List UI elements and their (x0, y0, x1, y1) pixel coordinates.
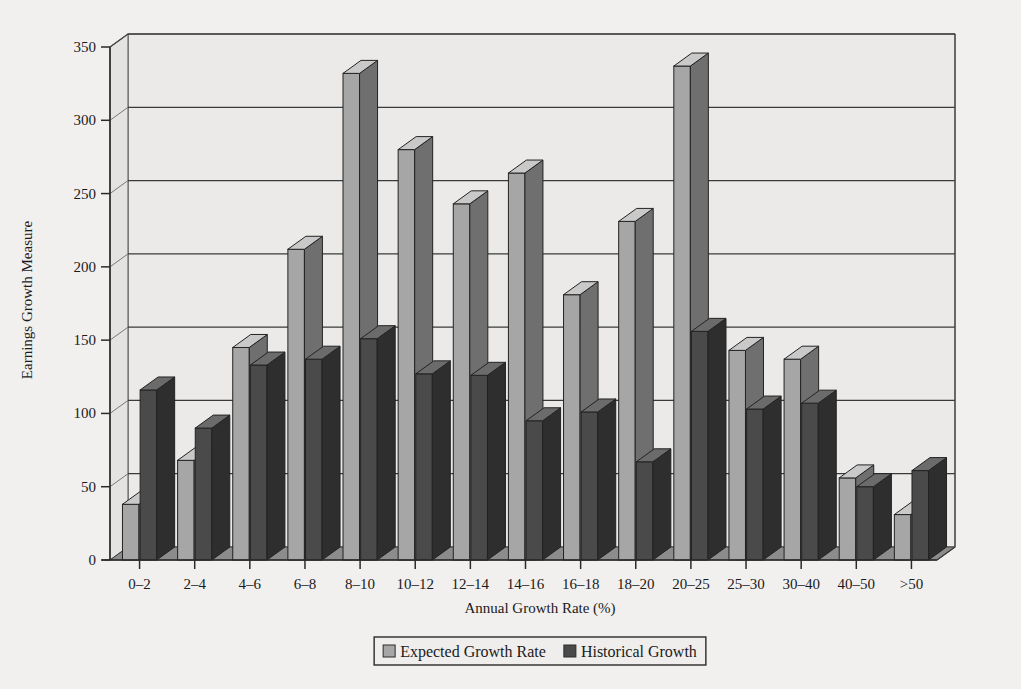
x-tick-label: 25–30 (727, 576, 765, 592)
legend-swatch (383, 645, 395, 657)
x-tick-label: 6–8 (294, 576, 317, 592)
bar (250, 352, 285, 560)
y-tick-label: 300 (74, 112, 97, 128)
bar (691, 318, 726, 560)
bar (636, 449, 671, 560)
x-tick-label: 12–14 (452, 576, 490, 592)
bar (912, 458, 947, 560)
bar (802, 390, 837, 560)
bar (857, 474, 892, 560)
bar (195, 415, 230, 560)
x-tick-label: 4–6 (239, 576, 262, 592)
y-tick-label: 250 (74, 186, 97, 202)
x-tick-label: 18–20 (617, 576, 655, 592)
y-tick-label: 0 (89, 552, 97, 568)
legend-label: Expected Growth Rate (400, 643, 546, 661)
y-tick-label: 150 (74, 332, 97, 348)
x-tick-label: 14–16 (507, 576, 545, 592)
chart-figure: 050100150200250300350 0–22–44–66–88–1010… (0, 0, 1021, 689)
bar-chart-canvas: 050100150200250300350 0–22–44–66–88–1010… (0, 0, 1021, 689)
legend-label: Historical Growth (581, 643, 697, 660)
y-axis-title: Earnings Growth Measure (19, 221, 35, 380)
x-axis-title: Annual Growth Rate (%) (464, 600, 615, 617)
y-tick-label: 200 (74, 259, 97, 275)
x-tick-label: 40–50 (838, 576, 876, 592)
x-tick-label: 10–12 (396, 576, 434, 592)
x-tick-label: >50 (900, 576, 923, 592)
bar (306, 346, 341, 560)
x-tick-label: 30–40 (782, 576, 820, 592)
x-tick-label: 2–4 (183, 576, 206, 592)
x-tick-label: 20–25 (672, 576, 710, 592)
chart-legend: Expected Growth RateHistorical Growth (374, 637, 706, 665)
bar (471, 362, 506, 560)
x-tick-label: 0–2 (128, 576, 151, 592)
y-tick-label: 50 (81, 479, 96, 495)
legend-swatch (564, 645, 576, 657)
bar (581, 399, 616, 560)
y-tick-label: 100 (74, 405, 97, 421)
x-tick-label: 8–10 (345, 576, 375, 592)
bar (140, 377, 175, 560)
x-tick-label: 16–18 (562, 576, 600, 592)
bar (361, 326, 396, 560)
bar (416, 361, 451, 560)
bar (526, 408, 561, 560)
bar (747, 396, 782, 560)
y-tick-label: 350 (74, 39, 97, 55)
